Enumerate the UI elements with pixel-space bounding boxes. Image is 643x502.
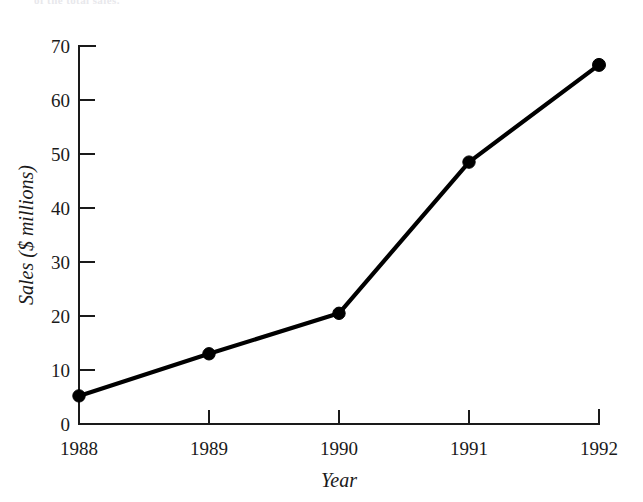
x-axis-title: Year	[321, 469, 357, 491]
y-tick-label-0: 0	[61, 414, 71, 435]
y-axis-ticks	[79, 100, 95, 370]
line-chart-plot: 70 60 50 40 30 20 10 0 1988 1989 1990 19…	[0, 0, 643, 502]
axis-spines	[79, 46, 599, 424]
y-tick-label-30: 30	[51, 252, 70, 273]
data-point-1991	[463, 156, 475, 168]
y-tick-label-10: 10	[51, 360, 70, 381]
y-tick-label-40: 40	[51, 198, 70, 219]
chart-figure: of the total sales. 70 60 50 40 30 20 10…	[0, 0, 643, 502]
x-tick-label-1991: 1991	[450, 438, 488, 459]
data-point-1992	[593, 58, 606, 71]
x-tick-label-1990: 1990	[320, 438, 358, 459]
axis-frame-path	[79, 46, 599, 424]
y-tick-label-20: 20	[51, 306, 70, 327]
x-axis-tick-labels: 1988 1989 1990 1991 1992	[60, 438, 618, 459]
x-tick-label-1989: 1989	[190, 438, 228, 459]
data-series-sales	[73, 58, 606, 402]
x-tick-label-1992: 1992	[580, 438, 618, 459]
x-axis-ticks	[209, 410, 469, 424]
x-tick-label-1988: 1988	[60, 438, 98, 459]
sales-line	[79, 65, 599, 396]
y-axis-tick-labels: 70 60 50 40 30 20 10 0	[51, 36, 70, 435]
data-point-1989	[203, 348, 215, 360]
y-tick-label-60: 60	[51, 90, 70, 111]
y-tick-label-50: 50	[51, 144, 70, 165]
y-tick-label-70: 70	[51, 36, 70, 57]
data-point-1990	[333, 307, 345, 319]
y-axis-title: Sales ($ millions)	[15, 165, 38, 305]
data-point-1988	[73, 390, 85, 402]
